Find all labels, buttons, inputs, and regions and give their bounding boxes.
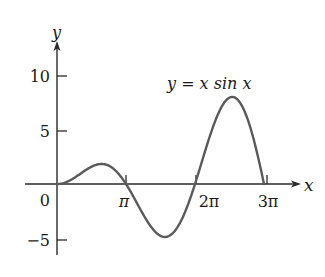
x-tick-label-2pi: 2π <box>199 192 220 211</box>
equation-label: y = x sin x <box>166 74 251 93</box>
equation-text: y = x sin x <box>166 74 251 93</box>
x-tick-label-3pi: 3π <box>258 192 279 211</box>
chart: y x 10 5 0 −5 π 2π 3π y = x sin x <box>0 0 325 277</box>
y-tick-label-5: 5 <box>40 122 50 141</box>
curve-x-sin-x <box>57 97 264 237</box>
y-tick-label-0: 0 <box>40 191 50 210</box>
y-tick-label-m5: −5 <box>26 231 50 250</box>
x-tick-label-pi: π <box>118 192 130 211</box>
x-axis-label: x <box>304 175 314 195</box>
y-tick-label-10: 10 <box>30 67 50 86</box>
y-axis-label: y <box>51 23 62 42</box>
